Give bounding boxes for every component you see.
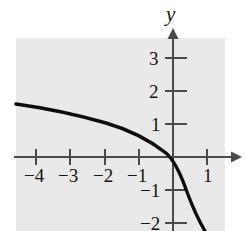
plot-panel: [16, 38, 225, 231]
x-tick-label--4: −4: [24, 166, 44, 185]
x-tick-label--2: −2: [93, 166, 113, 185]
graph-figure: [0, 0, 246, 231]
y-tick-label-2: 2: [149, 82, 159, 101]
y-tick-label--1: −1: [140, 181, 160, 200]
y-tick-label-3: 3: [149, 49, 159, 68]
y-axis-label: y: [166, 4, 175, 25]
y-tick-label-1: 1: [151, 115, 161, 134]
y-tick-label--2: −2: [140, 214, 160, 231]
x-tick-label-1: 1: [203, 166, 213, 185]
x-tick-label--3: −3: [58, 166, 78, 185]
